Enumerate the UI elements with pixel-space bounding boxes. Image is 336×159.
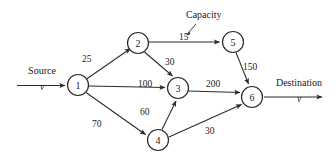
- node-1-label: 1: [76, 80, 81, 91]
- edge-label-4-3: 60: [140, 108, 150, 118]
- node-3-label: 3: [176, 83, 181, 94]
- node-1: 1: [68, 75, 89, 96]
- node-2: 2: [128, 33, 149, 54]
- node-3: 3: [168, 78, 189, 99]
- edge-label-3-6: 200: [206, 80, 220, 90]
- edge-label-1-3: 100: [138, 80, 152, 90]
- edge-label-2-3: 30: [165, 58, 175, 68]
- source-title: Source: [14, 66, 70, 76]
- edge-3-6: [188, 91, 240, 93]
- edge-label-5-6: 150: [243, 63, 257, 73]
- edge-4-3: [162, 101, 176, 130]
- destination-flow-variable: v: [266, 95, 332, 105]
- edge-label-4-6: 30: [205, 127, 215, 137]
- node-5-label: 5: [231, 37, 236, 48]
- node-2-label: 2: [136, 38, 141, 49]
- destination-terminal: Destination v: [266, 78, 332, 105]
- capacity-pointer-line: [188, 24, 196, 33]
- edge-label-2-5: 15: [179, 33, 189, 43]
- capacity-annotation-label: Capacity: [186, 10, 222, 20]
- network-flow-figure: 1 2 3 4 5 6 25 15 30 100 70 60 200 150 3…: [0, 0, 336, 159]
- node-4-label: 4: [156, 135, 161, 146]
- node-4: 4: [148, 130, 169, 151]
- node-6-label: 6: [250, 92, 255, 103]
- destination-title: Destination: [266, 78, 332, 88]
- source-flow-variable: v: [14, 83, 70, 93]
- node-6: 6: [242, 87, 263, 108]
- edge-1-2: [87, 49, 131, 80]
- edge-label-1-4: 70: [92, 120, 102, 130]
- edge-1-3: [89, 86, 166, 88]
- source-terminal: Source v: [14, 66, 70, 93]
- edge-label-1-2: 25: [82, 55, 92, 65]
- node-5: 5: [223, 32, 244, 53]
